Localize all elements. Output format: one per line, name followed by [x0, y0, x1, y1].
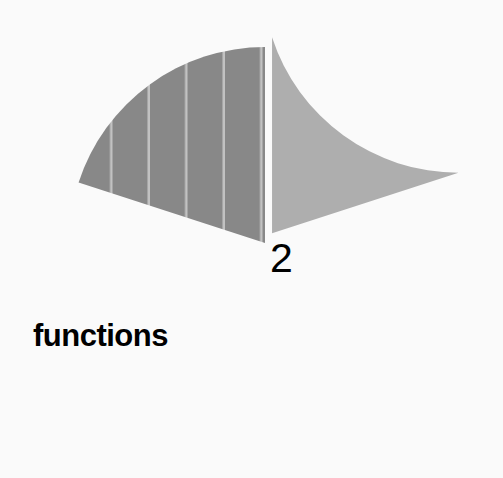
pie-chart-canvas — [0, 0, 503, 478]
pie-slice-label-two: 2 — [270, 238, 293, 279]
pie-chart: functions 2 — [0, 0, 503, 478]
pie-slice-two[interactable] — [272, 37, 458, 233]
slice-group-functions[interactable] — [79, 47, 265, 243]
pie-slice-label-functions: functions — [33, 320, 168, 351]
pie-slice-functions[interactable] — [79, 47, 265, 243]
slice-group-two[interactable] — [272, 37, 458, 233]
